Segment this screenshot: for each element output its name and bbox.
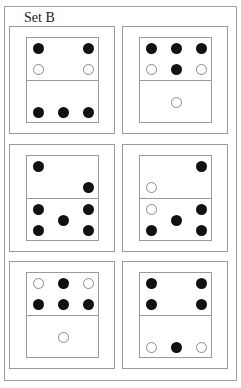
domino	[139, 37, 212, 123]
black-dot-icon	[83, 299, 94, 310]
black-dot-icon	[58, 107, 69, 118]
white-dot-icon	[83, 278, 94, 289]
black-dot-icon	[33, 43, 44, 54]
domino-half-top	[140, 156, 211, 199]
domino-half-bottom	[140, 316, 211, 358]
black-dot-icon	[171, 64, 182, 75]
white-dot-icon	[58, 332, 69, 343]
black-dot-icon	[83, 107, 94, 118]
black-dot-icon	[58, 215, 69, 226]
domino-half-top	[27, 273, 98, 316]
black-dot-icon	[146, 43, 157, 54]
white-dot-icon	[83, 64, 94, 75]
domino	[26, 155, 99, 241]
black-dot-icon	[83, 225, 94, 236]
domino-card-6	[122, 261, 228, 369]
domino-card-1	[9, 26, 115, 134]
black-dot-icon	[146, 225, 157, 236]
white-dot-icon	[196, 64, 207, 75]
domino	[26, 272, 99, 358]
domino-half-bottom	[27, 199, 98, 241]
black-dot-icon	[196, 225, 207, 236]
black-dot-icon	[33, 161, 44, 172]
domino-card-4	[122, 144, 228, 252]
black-dot-icon	[171, 342, 182, 353]
white-dot-icon	[33, 64, 44, 75]
black-dot-icon	[58, 299, 69, 310]
domino-half-bottom	[27, 316, 98, 358]
white-dot-icon	[146, 182, 157, 193]
domino-half-top	[140, 273, 211, 316]
domino-card-3	[9, 144, 115, 252]
domino-card-5	[9, 261, 115, 369]
black-dot-icon	[196, 204, 207, 215]
domino-half-bottom	[140, 199, 211, 241]
domino-card-2	[122, 26, 228, 134]
black-dot-icon	[33, 225, 44, 236]
domino-half-top	[140, 38, 211, 81]
black-dot-icon	[196, 43, 207, 54]
white-dot-icon	[146, 204, 157, 215]
white-dot-icon	[171, 97, 182, 108]
black-dot-icon	[146, 299, 157, 310]
domino	[139, 272, 212, 358]
black-dot-icon	[171, 215, 182, 226]
white-dot-icon	[196, 342, 207, 353]
black-dot-icon	[33, 204, 44, 215]
black-dot-icon	[33, 107, 44, 118]
white-dot-icon	[146, 64, 157, 75]
black-dot-icon	[83, 43, 94, 54]
white-dot-icon	[146, 342, 157, 353]
black-dot-icon	[33, 299, 44, 310]
white-dot-icon	[33, 278, 44, 289]
set-title: Set B	[24, 10, 55, 26]
black-dot-icon	[83, 204, 94, 215]
black-dot-icon	[196, 299, 207, 310]
black-dot-icon	[196, 161, 207, 172]
domino	[26, 37, 99, 123]
domino-half-top	[27, 156, 98, 199]
black-dot-icon	[196, 278, 207, 289]
black-dot-icon	[146, 278, 157, 289]
black-dot-icon	[58, 278, 69, 289]
domino-half-bottom	[140, 81, 211, 123]
black-dot-icon	[171, 43, 182, 54]
domino-half-top	[27, 38, 98, 81]
domino	[139, 155, 212, 241]
domino-half-bottom	[27, 81, 98, 123]
black-dot-icon	[83, 182, 94, 193]
